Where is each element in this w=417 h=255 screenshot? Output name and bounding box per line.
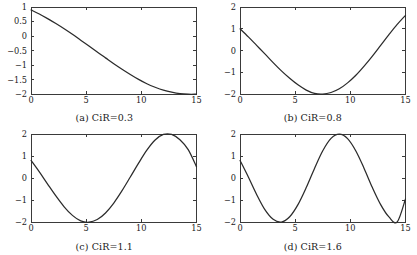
subplot-caption-a: (a) CiR=0.3: [0, 112, 209, 127]
subplot-caption-b: (b) CiR=0.8: [209, 112, 417, 127]
y-tick-label: 1: [22, 151, 27, 161]
plot-frame: [240, 7, 405, 94]
x-tick-label: 5: [84, 95, 89, 105]
plot-area-b: 210−1−2051015: [209, 0, 417, 112]
x-tick-label: 15: [191, 224, 201, 234]
x-tick-label: 10: [345, 224, 355, 234]
x-tick-label: 0: [237, 95, 242, 105]
x-tick-label: 15: [400, 224, 410, 234]
subplot-a: 10.50−0.5−1−1.5−2051015 (a) CiR=0.3: [0, 0, 209, 127]
y-tick-label: 0: [230, 46, 235, 56]
subplot-d: 210−1−2051015 (d) CiR=1.6: [209, 127, 417, 255]
subplot-caption-c: (c) CiR=1.1: [0, 241, 209, 255]
y-tick-label: −1.5: [7, 75, 27, 85]
plot-frame: [31, 7, 196, 94]
x-tick-label: 15: [191, 95, 201, 105]
y-tick-label: 0.5: [14, 16, 27, 26]
x-tick-label: 5: [292, 95, 297, 105]
y-tick-label: −2: [223, 89, 235, 99]
plot-svg-a: 10.50−0.5−1−1.5−2051015: [0, 0, 209, 112]
y-tick-label: 0: [22, 173, 27, 183]
plot-area-d: 210−1−2051015: [209, 127, 417, 240]
figure-panel-grid: 10.50−0.5−1−1.5−2051015 (a) CiR=0.3 210−…: [0, 0, 417, 255]
x-tick-label: 10: [136, 224, 146, 234]
subplot-b: 210−1−2051015 (b) CiR=0.8: [209, 0, 417, 127]
y-tick-label: 0: [230, 173, 235, 183]
x-tick-label: 15: [400, 95, 410, 105]
plot-svg-c: 210−1−2051015: [0, 127, 209, 240]
y-tick-label: −0.5: [7, 46, 27, 56]
y-tick-label: 2: [230, 2, 235, 12]
x-tick-label: 10: [345, 95, 355, 105]
y-tick-label: 2: [22, 129, 27, 139]
subplot-caption-d: (d) CiR=1.6: [209, 241, 417, 255]
plot-svg-b: 210−1−2051015: [209, 0, 417, 112]
y-tick-label: 1: [230, 151, 235, 161]
y-tick-label: −1: [15, 60, 27, 70]
x-tick-label: 5: [292, 224, 297, 234]
y-tick-label: 1: [230, 24, 235, 34]
subplot-c: 210−1−2051015 (c) CiR=1.1: [0, 127, 209, 255]
y-tick-label: 1: [22, 2, 27, 12]
x-tick-label: 0: [28, 224, 33, 234]
x-tick-label: 5: [84, 224, 89, 234]
y-tick-label: 2: [230, 129, 235, 139]
x-tick-label: 10: [136, 95, 146, 105]
y-tick-label: −2: [15, 89, 27, 99]
x-tick-label: 0: [28, 95, 33, 105]
y-tick-label: −1: [223, 195, 235, 205]
x-tick-label: 0: [237, 224, 242, 234]
plot-frame: [31, 134, 196, 222]
y-tick-label: 0: [22, 31, 27, 41]
y-tick-label: −2: [223, 217, 235, 227]
y-tick-label: −1: [15, 195, 27, 205]
plot-area-c: 210−1−2051015: [0, 127, 209, 240]
plot-svg-d: 210−1−2051015: [209, 127, 417, 240]
y-tick-label: −2: [15, 217, 27, 227]
y-tick-label: −1: [223, 67, 235, 77]
plot-area-a: 10.50−0.5−1−1.5−2051015: [0, 0, 209, 112]
